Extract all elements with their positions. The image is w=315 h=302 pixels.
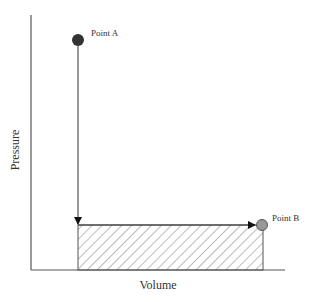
work-area-hatched-region (78, 225, 263, 270)
y-axis-label: Pressure (8, 130, 22, 171)
x-axis-label: Volume (139, 278, 176, 292)
point-a-marker (72, 34, 84, 46)
point-a-label: Point A (91, 28, 119, 38)
point-b-label: Point B (272, 213, 299, 223)
point-b-marker (257, 220, 268, 231)
pv-diagram: Point A Point B Volume Pressure (0, 0, 315, 302)
